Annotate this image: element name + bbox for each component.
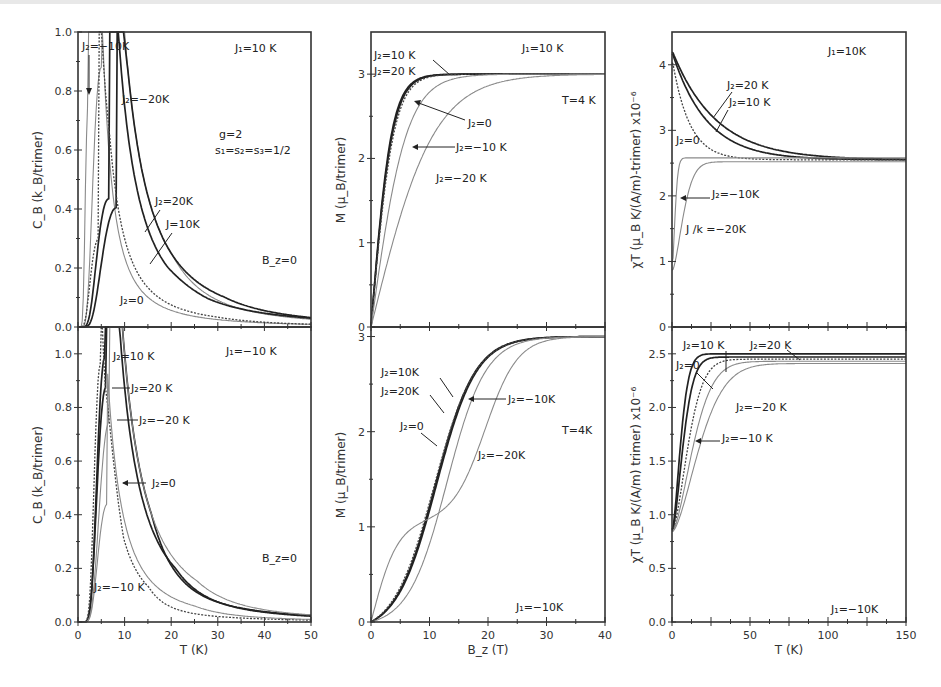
arrowhead-icon xyxy=(680,195,686,201)
series-J2-20K xyxy=(672,361,906,531)
y-tick-label: 3 xyxy=(358,68,365,81)
m-xlabel: B_z (T) xyxy=(467,643,508,657)
series-J2-10K xyxy=(672,364,906,532)
m-top-j2-0: J₂=0 xyxy=(467,117,492,130)
x-tick-label: 100 xyxy=(818,629,839,642)
cb-top-j1: J₁=10 K xyxy=(234,42,277,55)
chit-xlabel: T (K) xyxy=(774,643,803,657)
chit-bottom-ylabel: χT (μ_B K/(A/m) trimer) x10⁻⁶ xyxy=(629,387,643,564)
x-tick-label: 40 xyxy=(598,629,612,642)
m-top-j2-m20: J₂=−20 K xyxy=(435,172,488,185)
x-tick-label: 0 xyxy=(75,629,82,642)
y-tick-label: 0.0 xyxy=(649,616,667,629)
y-tick-label: 3 xyxy=(358,331,365,344)
chit-top-j1: J₁=10K xyxy=(827,45,867,58)
y-tick-label: 1.0 xyxy=(55,26,73,39)
x-tick-label: 20 xyxy=(481,629,495,642)
chit-top-j2-20: J₂=20 K xyxy=(726,79,769,92)
cb-bottom-j2-0: J₂=0 xyxy=(151,477,176,490)
series-J220K xyxy=(672,354,906,530)
chit-bottom-arrow-j2-20 xyxy=(787,350,800,360)
x-tick-label: 40 xyxy=(257,629,271,642)
x-tick-label: 20 xyxy=(164,629,178,642)
panel-chit-top: 01234 xyxy=(659,32,906,334)
y-tick-label: 1 xyxy=(358,521,365,534)
cb-top-g: g=2 xyxy=(219,128,242,141)
y-tick-label: 0 xyxy=(358,616,365,629)
series-Jk-20K xyxy=(672,162,906,270)
cb-bottom-j2-m10: J₂=−10 K xyxy=(93,581,146,594)
plot-frame xyxy=(672,327,906,622)
plot-frame xyxy=(672,32,906,327)
chit-top-ylabel: χT (μ_B K/(A/m)-trimer) x10⁻⁶ xyxy=(629,91,643,268)
panel-cb-top: 0.00.20.40.60.81.0 xyxy=(55,26,312,334)
panel-chit-bottom: 0501001500.00.51.01.52.02.5 xyxy=(649,327,917,642)
cb-top-j2-m10: J₂=−10K xyxy=(81,40,130,53)
m-bottom-arrow-j2-20 xyxy=(430,395,444,413)
arrowhead-icon xyxy=(412,144,418,150)
y-tick-label: 0 xyxy=(659,321,666,334)
m-top-ylabel: M (μ_B/trimer) xyxy=(334,137,348,223)
m-bottom-j2-m20: J₂=−20K xyxy=(477,449,526,462)
x-tick-label: 30 xyxy=(540,629,554,642)
y-tick-label: 0.2 xyxy=(55,562,73,575)
cb-top-j2-m20: J₂=−20K xyxy=(121,93,170,106)
chit-top-j2-0: J₂=0 xyxy=(675,134,700,147)
y-tick-label: 2.5 xyxy=(649,348,667,361)
m-top-j2-m10: J₂=−10 K xyxy=(455,141,508,154)
series-J220K xyxy=(672,52,906,159)
chit-bottom-arrow-j2-0 xyxy=(696,372,713,389)
m-bottom-j2-20: J₂=20K xyxy=(380,385,420,398)
y-tick-label: 0.8 xyxy=(55,401,73,414)
y-tick-label: 0.6 xyxy=(55,144,73,157)
y-tick-label: 0.0 xyxy=(55,616,73,629)
cb-top-bz: B_z=0 xyxy=(262,254,297,267)
cb-top-ylabel: C_B (k_B/trimer) xyxy=(31,131,45,229)
series-J220K xyxy=(78,32,311,327)
y-tick-label: 4 xyxy=(659,59,666,72)
chit-bottom-j1: J₁=−10K xyxy=(830,603,879,616)
cb-bottom-bz: B_z=0 xyxy=(262,552,297,565)
series-J2-10K xyxy=(672,158,906,263)
chit-top-j2-m20: J /k =−20K xyxy=(685,223,747,236)
series-J2-20K xyxy=(78,327,311,622)
x-tick-label: 10 xyxy=(118,629,132,642)
m-bottom-j1: J₁=−10K xyxy=(515,601,564,614)
series-J2-10K xyxy=(78,32,311,327)
series-J20 xyxy=(371,74,605,327)
cb-top-j2-20: J₂=20K xyxy=(154,195,194,208)
chit-bottom-j2-10: J₂=10 K xyxy=(682,339,725,352)
y-tick-label: 2 xyxy=(358,426,365,439)
cb-top-j2-0: J₂=0 xyxy=(119,294,144,307)
series-J210K xyxy=(371,74,605,327)
y-tick-label: 0.5 xyxy=(649,562,667,575)
series-J210K xyxy=(78,327,311,622)
m-bottom-j2-0: J₂=0 xyxy=(399,420,424,433)
y-tick-label: 0.4 xyxy=(55,509,73,522)
y-tick-label: 1 xyxy=(358,237,365,250)
x-tick-label: 10 xyxy=(423,629,437,642)
m-top-t: T=4 K xyxy=(561,94,596,107)
series-J220K xyxy=(371,74,605,327)
m-top-j2-10: J₂=10 K xyxy=(373,49,416,62)
y-tick-label: 0.6 xyxy=(55,455,73,468)
series-J220K xyxy=(371,337,605,622)
arrowhead-icon xyxy=(86,88,92,95)
series-J210K xyxy=(672,54,906,160)
m-bottom-arrow-j2-10 xyxy=(440,378,453,397)
y-tick-label: 2 xyxy=(659,190,666,203)
x-tick-label: 50 xyxy=(304,629,318,642)
series-J2-20K xyxy=(371,74,605,327)
arrowhead-icon xyxy=(695,438,701,444)
plot-frame xyxy=(78,327,311,622)
chit-top-j2-m10: J₂=−10K xyxy=(711,188,760,201)
x-tick-label: 0 xyxy=(669,629,676,642)
chit-bottom-j2-0: J₂=0 xyxy=(675,359,700,372)
cb-bottom-j1: J₁=−10 K xyxy=(225,345,278,358)
x-tick-label: 50 xyxy=(743,629,757,642)
m-bottom-arrow-j2-0 xyxy=(421,433,437,446)
y-tick-label: 1.0 xyxy=(55,348,73,361)
cb-top-j2-10: J=10K xyxy=(165,218,200,231)
chit-bottom-j2-m10: J₂=−10 K xyxy=(721,432,774,445)
arrowhead-icon xyxy=(122,480,128,486)
